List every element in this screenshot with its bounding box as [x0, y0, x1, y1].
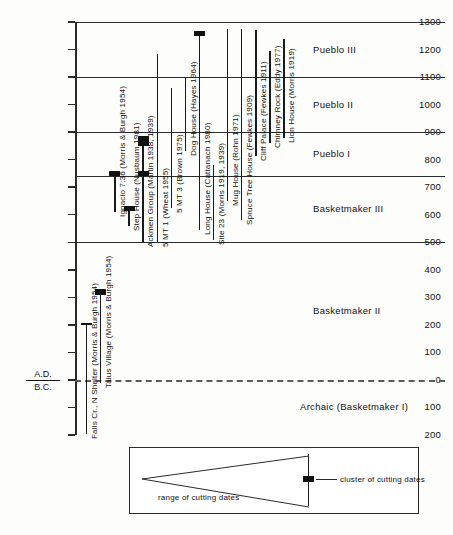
period-divider [75, 176, 445, 177]
axis-tick-label: 100 [401, 346, 441, 357]
site-label: Chimney Rock (Eddy 1977) [273, 46, 282, 149]
site-label: Ackmen Group (Martin 1938, 1939) [146, 116, 155, 248]
axis-tick-label: 300 [401, 291, 441, 302]
axis-tick-label: 600 [401, 209, 441, 220]
site-label: 5 MT 3 (Brown 1975) [175, 134, 184, 213]
site-label: Lion House (Morris 1919) [287, 48, 296, 143]
range-bar [142, 138, 143, 243]
axis-tick [68, 186, 75, 188]
chronology-chart: 1300120011001000900800700600500400300200… [0, 0, 453, 535]
site-label: Ignacio 7:36 (Morris & Burgh 1954) [118, 86, 127, 217]
period-label: Basketmaker II [313, 305, 381, 316]
bc-label: B.C. [26, 381, 60, 392]
axis-tick-label: 1200 [401, 44, 441, 55]
range-bar [255, 30, 256, 155]
axis-tick [68, 159, 75, 161]
site-label: Cliff Palace (Fewkes 1911) [259, 61, 268, 161]
axis-tick [68, 104, 75, 106]
cluster-marker [194, 31, 205, 37]
axis-tick [68, 297, 75, 299]
range-bar [269, 51, 270, 143]
axis-tick [68, 131, 75, 133]
period-label: Pueblo I [313, 148, 350, 159]
range-bar [185, 77, 186, 151]
axis-tick [68, 407, 75, 409]
site-label: 5 MT 1 (Wheat 1955) [161, 168, 170, 247]
period-label: Pueblo II [313, 99, 353, 110]
range-bar [86, 323, 87, 433]
range-bar [227, 29, 228, 201]
range-bar [241, 29, 242, 220]
axis-tick [68, 434, 75, 436]
site-label: Dog House (Hayes 1964) [189, 62, 198, 157]
range-bar [114, 172, 115, 212]
axis-tick [68, 269, 75, 271]
site-label: Site 23 (Morris 1919, 1939) [217, 142, 226, 244]
period-label: Archaic (Basketmaker I) [300, 401, 408, 412]
site-label: Spruce Tree House (Fewkes 1909) [245, 95, 254, 225]
legend-box: range of cutting dates cluster of cuttin… [129, 447, 419, 514]
axis-tick [68, 76, 75, 78]
axis-tick [68, 242, 75, 244]
range-bar [283, 39, 284, 138]
site-label: Talus Village (Morris & Burgh 1954) [104, 255, 113, 387]
axis-tick [68, 21, 75, 23]
axis-tick [68, 352, 75, 354]
range-wedge-icon [134, 450, 312, 512]
site-label: Falls Cr., N Shelter (Morris & Burgh 195… [90, 283, 99, 439]
period-divider [75, 380, 445, 382]
axis-tick-label: 800 [401, 154, 441, 165]
axis-tick [68, 49, 75, 51]
period-label: Basketmaker III [313, 203, 384, 214]
legend-cluster-marker [303, 476, 314, 482]
range-bar [213, 165, 214, 239]
ad-label: A.D. [26, 369, 60, 381]
site-label: Step House (Nusbaum 1981) [132, 122, 141, 231]
site-label: Long House (Cattanach 1980) [203, 122, 212, 235]
legend-range-label: range of cutting dates [158, 493, 239, 502]
period-divider [75, 22, 445, 23]
axis-tick-label: 1000 [401, 99, 441, 110]
axis-tick [68, 214, 75, 216]
range-bar [199, 33, 200, 230]
axis-tick [68, 324, 75, 326]
axis-tick [68, 379, 75, 381]
period-divider [75, 242, 445, 243]
y-axis-line [75, 22, 77, 435]
legend-leader-line [316, 479, 337, 480]
legend-cluster-label: cluster of cutting dates [340, 475, 425, 484]
axis-tick-label: 200 [401, 429, 441, 440]
site-label: Mug House (Rohn 1971) [231, 114, 240, 206]
axis-tick-label: 700 [401, 181, 441, 192]
ad-bc-marker: A.D.B.C. [26, 369, 60, 392]
range-bar [171, 88, 172, 208]
axis-tick-label: 400 [401, 264, 441, 275]
range-bar [100, 292, 101, 383]
period-label: Pueblo III [313, 44, 356, 55]
range-bar [157, 54, 158, 243]
axis-tick-label: 200 [401, 319, 441, 330]
